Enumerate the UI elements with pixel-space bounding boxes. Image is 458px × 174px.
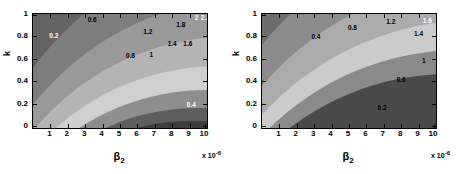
x-tick-top [366,14,367,18]
x-tick-top [349,14,350,18]
x-tick [120,124,121,128]
x-tick [68,124,69,128]
left-contour-surface [33,14,207,128]
y-tick-right [203,36,207,37]
contour-label: 0.4 [311,32,320,39]
x-axis-exponent: x 10-6 [431,150,450,159]
x-tick-top [50,14,51,18]
y-tick-right [432,81,436,82]
contour-label: 0.8 [348,23,357,30]
x-tick [366,124,367,128]
y-tick-label: 1 [4,9,28,18]
y-tick [33,15,37,16]
x-tick [155,124,156,128]
contour-label: 0.6 [397,75,406,82]
x-axis-title: β2 [32,150,206,165]
contour-label: 1 [422,56,426,63]
y-tick-label: 0.4 [233,76,257,85]
y-tick-label: 0 [4,121,28,130]
x-axis-exponent: x 10-6 [202,150,221,159]
x-tick-top [120,14,121,18]
y-tick-label: 0.2 [4,99,28,108]
x-axis-title: β2 [261,150,435,165]
contour-figure-pair: 0.2 0.6 0.8 1 1.2 1.4 1.6 1.8 2 2.2 0.4 [0,0,458,174]
y-tick-right [432,104,436,105]
x-tick-top [68,14,69,18]
contour-label: 2.2 [201,14,208,21]
x-tick-top [137,14,138,18]
y-tick [262,104,266,105]
x-tick [297,124,298,128]
y-tick [33,59,37,60]
y-tick [262,15,266,16]
x-tick [85,124,86,128]
contour-label: 1.2 [143,28,152,35]
x-axis-title-subscript: 2 [349,156,353,165]
x-tick-label: 10 [194,129,214,138]
x-tick-top [314,14,315,18]
left-panel: 0.2 0.6 0.8 1 1.2 1.4 1.6 1.8 2 2.2 0.4 [0,0,229,174]
y-tick [33,126,37,127]
y-tick [33,81,37,82]
y-tick-label: 1 [233,9,257,18]
x-axis-exponent-power: -6 [445,150,450,156]
x-tick-top [401,14,402,18]
x-tick-top [279,14,280,18]
y-tick [262,36,266,37]
right-plot-area: 0.4 0.8 1.2 1.4 1.6 1 0.6 0.2 [261,13,437,129]
y-tick-right [203,104,207,105]
x-tick-top [384,14,385,18]
y-axis-title: k [231,51,241,56]
x-axis-exponent-base: x 10 [431,152,445,159]
y-tick-label: 0.8 [233,31,257,40]
x-tick-top [332,14,333,18]
x-axis-exponent-power: -6 [216,150,221,156]
x-tick [103,124,104,128]
contour-label: 1.8 [176,21,185,28]
contour-label: 0.8 [126,52,135,59]
x-tick [419,124,420,128]
y-tick-label: 0.2 [233,99,257,108]
contour-label: 0.6 [88,15,97,22]
x-tick [349,124,350,128]
x-tick-label: 10 [423,129,443,138]
x-tick-top [172,14,173,18]
y-tick [262,81,266,82]
x-tick [314,124,315,128]
y-tick [262,59,266,60]
contour-label: 1.6 [423,16,432,23]
y-tick-right [203,59,207,60]
contour-label: 1.2 [386,17,395,24]
x-axis-exponent-base: x 10 [202,152,216,159]
x-tick [50,124,51,128]
y-tick-right [432,126,436,127]
right-contour-surface [262,14,436,128]
x-tick-top [297,14,298,18]
y-tick-label: 0.8 [4,31,28,40]
right-panel: 0.4 0.8 1.2 1.4 1.6 1 0.6 0.2 [229,0,458,174]
y-axis-title: k [2,51,12,56]
contour-label: 0.2 [49,31,58,38]
x-tick [401,124,402,128]
contour-label: 1.4 [168,39,177,46]
y-tick-right [203,126,207,127]
y-tick [33,36,37,37]
x-tick [137,124,138,128]
x-tick [384,124,385,128]
contour-label: 0.4 [187,101,196,108]
y-tick-right [432,36,436,37]
x-tick [172,124,173,128]
y-tick-right [432,59,436,60]
y-tick [33,104,37,105]
x-tick-top [103,14,104,18]
y-tick [262,126,266,127]
x-tick-top [155,14,156,18]
x-tick [332,124,333,128]
y-tick-label: 0.4 [4,76,28,85]
y-tick-label: 0 [233,121,257,130]
y-tick-right [203,81,207,82]
x-tick [190,124,191,128]
x-axis-title-subscript: 2 [120,156,124,165]
contour-label: 0.2 [378,104,387,111]
left-plot-area: 0.2 0.6 0.8 1 1.2 1.4 1.6 1.8 2 2.2 0.4 [32,13,208,129]
